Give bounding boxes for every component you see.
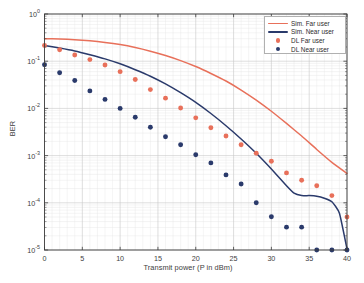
data-point [239,182,244,187]
data-point [284,225,289,230]
x-tick-label: 20 [192,254,200,263]
legend-label: Sim. Near user [291,28,334,35]
data-point [269,159,274,164]
x-tick-label: 15 [154,254,162,263]
y-tick-label: 10-3 [14,151,40,160]
data-point [87,88,92,93]
data-point [103,97,108,102]
data-point [178,142,183,147]
data-point [208,160,213,165]
data-point [254,151,259,156]
data-point [133,115,138,120]
data-point [87,57,92,62]
legend-marker-swatch [268,45,288,53]
legend-item-1[interactable]: Sim. Near user [265,28,345,36]
data-point [224,172,229,177]
data-point [163,134,168,139]
x-tick-label: 35 [305,254,313,263]
data-point [299,225,304,230]
data-point [208,125,213,130]
data-point [193,115,198,120]
y-tick-label: 10-5 [14,246,40,255]
figure-canvas: 051015202530354010010-110-210-310-410-5 … [0,0,364,283]
x-tick-label: 10 [116,254,124,263]
legend-line-swatch [268,19,288,27]
y-axis-label: BER [8,109,17,149]
data-point [57,47,62,52]
y-tick-label: 100 [14,10,40,19]
data-point [254,200,259,205]
data-point [269,214,274,219]
chart-legend: Sim. Far userSim. Near userDL Far userDL… [264,16,346,54]
x-tick-label: 40 [343,254,351,263]
data-point [148,125,153,130]
data-point [72,78,77,83]
data-point [118,69,123,74]
x-tick-label: 5 [80,254,84,263]
data-point [314,183,319,188]
legend-item-0[interactable]: Sim. Far user [265,19,345,27]
x-tick-label: 0 [43,254,47,263]
data-point [133,77,138,82]
x-tick-label: 25 [230,254,238,263]
legend-item-2[interactable]: DL Far user [265,36,345,44]
legend-label: Sim. Far user [291,20,330,27]
data-point [118,106,123,111]
data-point [57,70,62,75]
x-tick-label: 30 [267,254,275,263]
x-axis-label: Transmit power (P in dBm) [0,263,364,272]
data-point [178,106,183,111]
data-point [224,134,229,139]
legend-label: DL Far user [291,37,325,44]
legend-item-3[interactable]: DL Near user [265,45,345,53]
legend-label: DL Near user [291,46,329,53]
legend-marker-swatch [268,37,288,45]
data-point [163,96,168,101]
data-point [103,63,108,68]
y-tick-label: 10-1 [14,57,40,66]
data-point [299,178,304,183]
data-point [329,193,334,198]
y-tick-label: 10-2 [14,104,40,113]
data-point [284,170,289,175]
data-point [239,142,244,147]
data-point [193,152,198,157]
legend-line-swatch [268,28,288,36]
y-tick-label: 10-4 [14,198,40,207]
data-point [72,53,77,58]
data-point [148,87,153,92]
